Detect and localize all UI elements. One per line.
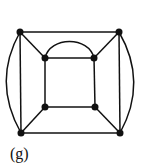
- edge-inner-top-arc: [45, 42, 94, 59]
- edge-spoke-tr: [94, 32, 119, 58]
- edge-outer-left-curve: [6, 32, 21, 133]
- node-outer-tr: [116, 29, 123, 36]
- graph-diagram: [0, 0, 158, 164]
- edge-outer-left: [20, 32, 21, 133]
- edge-outer-right: [119, 32, 120, 133]
- node-inner-tl: [42, 55, 49, 62]
- edge-spoke-tl: [20, 32, 45, 58]
- node-outer-br: [117, 130, 124, 137]
- edge-outer-right-curve: [119, 32, 134, 133]
- node-inner-br: [92, 104, 99, 111]
- node-outer-bl: [18, 130, 25, 137]
- edge-spoke-br: [95, 107, 120, 133]
- node-inner-bl: [42, 104, 49, 111]
- figure-label: (g): [10, 145, 29, 163]
- node-outer-tl: [17, 29, 24, 36]
- node-inner-tr: [91, 55, 98, 62]
- edge-inner-right: [94, 58, 95, 107]
- edge-spoke-bl: [21, 107, 45, 133]
